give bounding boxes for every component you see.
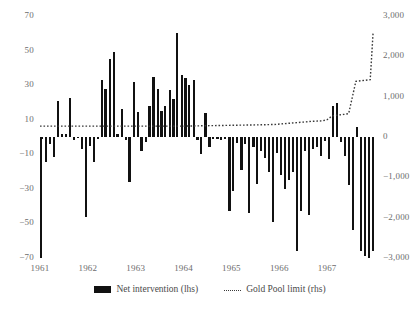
legend-dotted-line-swatch-icon	[224, 290, 241, 291]
y-axis-right-tick: 1,000	[383, 91, 404, 101]
y-axis-left-tick: −30	[0, 183, 34, 193]
x-axis-tick: 1963	[116, 263, 156, 273]
y-axis-right-tick: −1,000	[383, 171, 410, 181]
legend-item-net-intervention: Net intervention (lhs)	[94, 284, 198, 294]
legend-bar-swatch-icon	[94, 286, 111, 293]
legend-item-gold-pool-limit: Gold Pool limit (rhs)	[224, 284, 325, 294]
y-axis-left-tick: −10	[0, 148, 34, 158]
y-axis-right-tick: 0	[383, 131, 388, 141]
y-axis-right-tick: 3,000	[383, 10, 404, 20]
chart-root: 70503010−10−30−50−70 3,0002,0001,0000−1,…	[0, 0, 420, 310]
legend-label-net-intervention: Net intervention (lhs)	[116, 284, 198, 294]
plot-area	[40, 16, 375, 258]
y-axis-left-tick: −70	[0, 252, 34, 262]
x-axis-tick: 1966	[259, 263, 299, 273]
y-axis-left-tick: 10	[0, 114, 34, 124]
y-axis-right-tick: 2,000	[383, 50, 404, 60]
x-axis-tick: 1964	[164, 263, 204, 273]
chart-legend: Net intervention (lhs) Gold Pool limit (…	[0, 284, 420, 294]
x-axis-tick: 1967	[307, 263, 347, 273]
y-axis-left-tick: −50	[0, 217, 34, 227]
x-axis-tick: 1962	[68, 263, 108, 273]
y-axis-left-tick: 50	[0, 45, 34, 55]
line-series-gold-pool-limit	[40, 16, 375, 258]
x-axis-tick: 1961	[20, 263, 60, 273]
x-axis-tick: 1965	[211, 263, 251, 273]
legend-label-gold-pool-limit: Gold Pool limit (rhs)	[246, 284, 325, 294]
y-axis-left-tick: 30	[0, 79, 34, 89]
y-axis-right-tick: −3,000	[383, 252, 410, 262]
y-axis-right-tick: −2,000	[383, 212, 410, 222]
y-axis-left-tick: 70	[0, 10, 34, 20]
